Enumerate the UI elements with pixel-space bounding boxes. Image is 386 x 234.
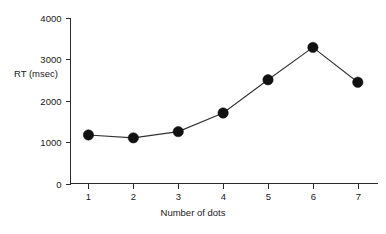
x-tick-label-2: 2 (131, 191, 136, 202)
y-tick-label-1000: 1000 (40, 137, 61, 148)
x-axis-title: Number of dots (161, 207, 226, 218)
x-tick-label-1: 1 (86, 191, 91, 202)
y-tick-label-3000: 3000 (40, 54, 61, 65)
data-point-2 (128, 133, 138, 143)
x-tick-label-6: 6 (311, 191, 316, 202)
data-point-6 (308, 42, 318, 52)
x-tick-label-3: 3 (176, 191, 181, 202)
data-point-1 (83, 130, 93, 140)
x-tick-label-4: 4 (221, 191, 226, 202)
chart-canvas: 01000200030004000 1234567 RT (msec) Numb… (0, 0, 386, 234)
line-chart-figure: 01000200030004000 1234567 RT (msec) Numb… (0, 0, 386, 234)
y-tick-label-4000: 4000 (40, 13, 61, 24)
y-axis-title: RT (msec) (14, 68, 58, 79)
data-point-5 (263, 75, 273, 85)
y-tick-label-2000: 2000 (40, 96, 61, 107)
y-tick-label-0: 0 (56, 179, 61, 190)
data-point-3 (173, 126, 183, 136)
x-tick-label-7: 7 (356, 191, 361, 202)
data-point-4 (218, 108, 228, 118)
x-tick-label-5: 5 (266, 191, 271, 202)
data-point-7 (353, 77, 363, 87)
chart-background (0, 0, 386, 234)
